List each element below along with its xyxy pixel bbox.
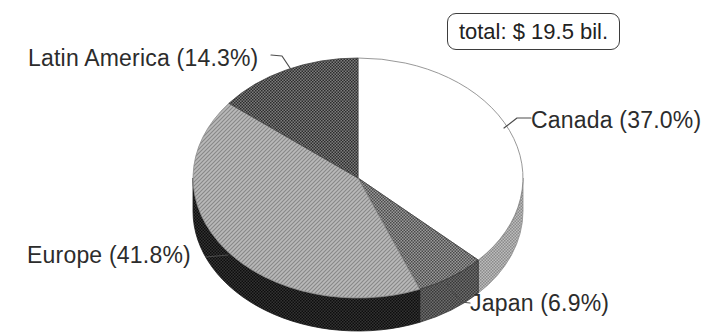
total-annotation-box: total: $ 19.5 bil. <box>447 13 620 50</box>
slice-label-canada: Canada (37.0%) <box>531 107 701 133</box>
slice-label-latin-america: Latin America (14.3%) <box>28 45 258 71</box>
leader-line-latin-america <box>271 55 292 71</box>
pie-chart-figure: total: $ 19.5 bil. Latin America (14.3%)… <box>0 0 728 334</box>
leader-line-canada <box>504 118 531 128</box>
slice-label-europe: Europe (41.8%) <box>27 242 191 268</box>
slice-label-japan: Japan (6.9%) <box>470 290 609 316</box>
total-annotation-text: total: $ 19.5 bil. <box>459 19 608 45</box>
